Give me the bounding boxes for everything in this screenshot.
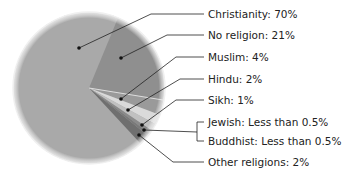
label-sikh: Sikh: 1% bbox=[208, 94, 254, 106]
label-hindu: Hindu: 2% bbox=[208, 73, 262, 85]
label-muslim: Muslim: 4% bbox=[208, 51, 269, 63]
label-christianity: Christianity: 70% bbox=[208, 8, 298, 20]
label-no-religion: No religion: 21% bbox=[208, 29, 295, 41]
label-buddhist: Buddhist: Less than 0.5% bbox=[208, 135, 342, 147]
label-other-religions: Other religions: 2% bbox=[208, 156, 309, 168]
label-jewish: Jewish: Less than 0.5% bbox=[208, 116, 328, 128]
